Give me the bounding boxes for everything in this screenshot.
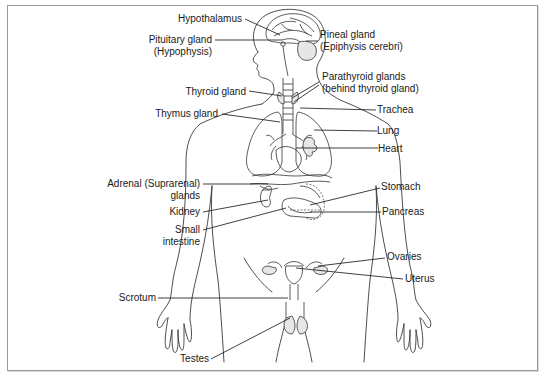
label-scrotum: Scrotum [100, 292, 156, 304]
neck-structures [278, 78, 299, 134]
label-trachea: Trachea [377, 104, 413, 116]
label-small-intestine-line2: intestine [150, 236, 200, 248]
label-thyroid-gland: Thyroid gland [170, 86, 246, 98]
label-pineal-line2: (Epiphysis cerebri) [320, 41, 403, 53]
brain-illustration [266, 14, 320, 76]
lungs-illustration [247, 112, 332, 176]
label-parathyroid-line2: (behind thyroid gland) [322, 83, 419, 95]
label-pineal-gland: Pineal gland (Epiphysis cerebri) [320, 29, 403, 53]
label-small-intestine-line1: Small [150, 224, 200, 236]
label-adrenal-glands: Adrenal (Suprarenal) glands [90, 178, 200, 202]
label-pituitary-gland: Pituitary gland (Hypophysis) [140, 34, 212, 58]
label-pancreas: Pancreas [382, 206, 424, 218]
label-thymus-gland: Thymus gland [140, 108, 218, 120]
abdomen-organs [250, 174, 332, 219]
label-pineal-line1: Pineal gland [320, 29, 403, 41]
label-testes: Testes [160, 353, 209, 365]
label-stomach: Stomach [381, 181, 420, 193]
label-kidney: Kidney [150, 206, 200, 218]
label-heart: Heart [378, 143, 402, 155]
label-uterus: Uterus [405, 273, 434, 285]
label-adrenal-line2: glands [90, 190, 200, 202]
label-pituitary-line1: Pituitary gland [140, 34, 212, 46]
label-adrenal-line1: Adrenal (Suprarenal) [90, 178, 200, 190]
label-ovaries: Ovaries [387, 251, 421, 263]
label-pituitary-line2: (Hypophysis) [140, 46, 212, 58]
label-hypothalamus: Hypothalamus [150, 13, 242, 25]
diagram-canvas: Hypothalamus Pituitary gland (Hypophysis… [0, 0, 545, 375]
human-body-illustration [0, 0, 545, 375]
label-parathyroid-line1: Parathyroid glands [322, 71, 419, 83]
label-small-intestine: Small intestine [150, 224, 200, 248]
label-parathyroid-glands: Parathyroid glands (behind thyroid gland… [322, 71, 419, 95]
label-lung: Lung [377, 125, 399, 137]
